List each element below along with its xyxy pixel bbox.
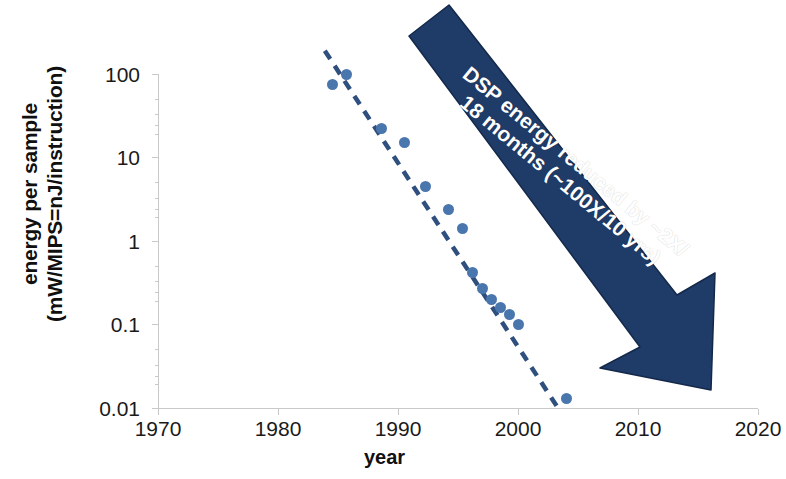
chart-figure: energy per sample (mW/MIPS=nJ/instructio… xyxy=(0,0,769,479)
annotation-arrow xyxy=(0,0,769,479)
